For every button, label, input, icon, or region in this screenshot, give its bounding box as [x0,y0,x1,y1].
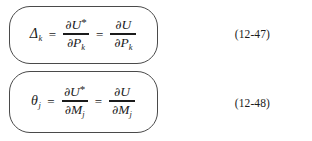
equation-row-12-48: θj = ∂U* ∂Mj = ∂U ∂Mj (12-48) [0,71,312,134]
numerator-superscript-star: * [81,16,87,28]
denominator-variable: M [71,102,82,117]
delta-subscript: k [38,33,42,43]
equation-number-12-48: (12-48) [235,97,270,109]
equation-row-12-47: Δk = ∂U* ∂Pk = ∂U ∂Pk (12-47) [0,6,312,65]
numerator-superscript-star: * [80,83,86,95]
fraction-du-dm-j: ∂U ∂Mj [109,85,135,116]
denominator-subscript: j [82,109,84,119]
formula-12-47: Δk = ∂U* ∂Pk = ∂U ∂Pk [30,18,138,49]
equals-sign-2: = [95,95,102,108]
fraction-denominator: ∂Mj [63,102,87,117]
fraction-numerator: ∂U* [62,85,87,100]
denominator-subscript: k [81,42,85,52]
denominator-subscript: k [129,42,133,52]
fraction-du-star-dm-j: ∂U* ∂Mj [62,85,88,116]
equals-sign-1: = [49,28,56,41]
equation-box-12-47: Δk = ∂U* ∂Pk = ∂U ∂Pk [9,6,158,64]
theta-subscript: j [38,100,40,110]
theta-symbol: θ [31,93,38,108]
lhs-symbol-delta-k: Δk [30,27,43,41]
equation-number-12-47: (12-47) [235,28,270,40]
equals-sign-2: = [96,28,103,41]
lhs-symbol-theta-j: θj [31,94,41,108]
delta-symbol: Δ [30,26,38,41]
equation-box-12-48: θj = ∂U* ∂Mj = ∂U ∂Mj [9,71,158,133]
fraction-denominator: ∂Pk [112,35,134,50]
numerator-variable: U [122,17,132,32]
fraction-du-dp-k: ∂U ∂Pk [110,18,136,49]
denominator-variable: P [73,35,81,50]
denominator-subscript: j [130,109,132,119]
fraction-denominator: ∂Pk [65,35,87,50]
denominator-variable: P [120,35,128,50]
numerator-variable: U [120,84,130,99]
denominator-variable: M [118,102,129,117]
numerator-variable: U [70,84,80,99]
numerator-variable: U [71,17,81,32]
formula-12-48: θj = ∂U* ∂Mj = ∂U ∂Mj [31,85,136,116]
fraction-numerator: ∂U* [63,18,88,33]
fraction-du-star-dp-k: ∂U* ∂Pk [63,18,89,49]
equals-sign-1: = [47,95,54,108]
fraction-denominator: ∂Mj [110,102,134,117]
fraction-numerator: ∂U [112,85,132,100]
fraction-numerator: ∂U [113,18,133,33]
